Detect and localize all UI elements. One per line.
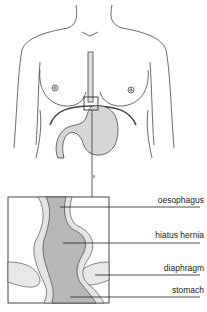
label-stomach: stomach xyxy=(172,285,204,295)
inset-box xyxy=(8,197,109,303)
label-diaphragm: diaphragm xyxy=(164,263,204,273)
label-hiatus-hernia: hiatus hernia xyxy=(155,230,204,240)
label-oesophagus: oesophagus xyxy=(158,195,204,205)
